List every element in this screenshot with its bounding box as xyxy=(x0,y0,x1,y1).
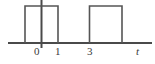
pulse-waveform-figure: 0 1 3 t xyxy=(0,0,155,64)
tick-label-1: 1 xyxy=(55,46,61,57)
pulse-second xyxy=(90,6,123,43)
tick-label-0: 0 xyxy=(34,46,40,57)
tick-label-3: 3 xyxy=(87,46,93,57)
waveform-plot xyxy=(0,0,155,64)
axis-label-t: t xyxy=(136,46,139,57)
